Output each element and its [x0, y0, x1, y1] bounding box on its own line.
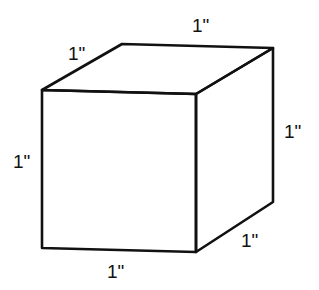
label-bottom-front-edge: 1" [107, 262, 124, 281]
label-top-back-edge: 1" [192, 16, 209, 35]
label-right-vertical-edge: 1" [284, 122, 301, 141]
label-bottom-right-edge: 1" [241, 231, 258, 250]
label-left-vertical-edge: 1" [13, 152, 30, 171]
cube-front-face [42, 90, 196, 252]
label-top-left-edge: 1" [68, 44, 85, 63]
cube-right-face [196, 48, 273, 252]
cube-drawing [0, 0, 319, 290]
